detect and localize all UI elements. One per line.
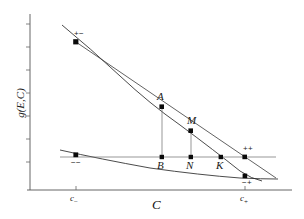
marker-plus-minus[interactable]: [73, 39, 78, 44]
label-A: A: [157, 91, 164, 102]
figure-root: g(E,C) C c− c+ +− A M ++ −− B N K −+: [0, 0, 304, 219]
x-axis-label: C: [152, 198, 161, 211]
x-tick-c-minus-sub: −: [74, 198, 78, 206]
y-axis-label: g(E,C): [14, 88, 26, 118]
x-axis-ticks: [76, 186, 245, 190]
data-point-markers: [73, 39, 247, 178]
label-M: M: [187, 115, 196, 126]
label-K: K: [216, 160, 223, 171]
y-axis-ticks: [26, 24, 30, 162]
x-tick-label-c-plus: c+: [240, 194, 248, 206]
marker-plus-plus[interactable]: [242, 155, 247, 160]
x-tick-label-c-minus: c−: [70, 194, 78, 206]
marker-minus-minus[interactable]: [73, 152, 78, 157]
marker-A[interactable]: [159, 104, 164, 109]
label-B: B: [157, 160, 164, 171]
label-minus-plus: −+: [242, 179, 252, 187]
plot-canvas: [0, 0, 304, 219]
x-tick-c-plus-sub: +: [244, 198, 248, 206]
marker-M[interactable]: [188, 128, 193, 133]
label-N: N: [186, 160, 193, 171]
label-plus-plus: ++: [243, 145, 253, 153]
label-plus-minus: +−: [74, 30, 84, 38]
y-axis-label-wrap: g(E,C): [10, 73, 26, 133]
label-minus-minus: −−: [71, 159, 81, 167]
